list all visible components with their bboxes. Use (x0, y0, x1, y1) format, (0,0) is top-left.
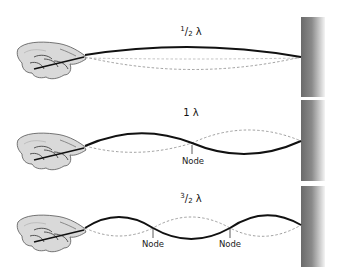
node-label: Node (142, 240, 164, 249)
fraction-numerator: 1 (180, 25, 184, 33)
hand-icon (17, 133, 86, 170)
wall (301, 186, 325, 267)
node-label: Node (182, 157, 204, 166)
rope (85, 47, 301, 57)
fraction-numerator: 3 (180, 192, 184, 200)
hand-icon (17, 42, 86, 79)
hand-icon (17, 215, 86, 252)
rope-dashed-envelope (85, 58, 301, 59)
fraction-denominator: 2 (188, 197, 192, 205)
node-label: Node (219, 240, 241, 249)
wavelength-label-three-half: 3/2 λ (180, 193, 201, 205)
rope-dashed-envelope (85, 130, 301, 152)
panel-three-half-wavelength (17, 186, 325, 267)
lambda-symbol: λ (196, 193, 202, 204)
lambda-symbol: λ (196, 26, 202, 37)
rope-dashed-envelope (85, 217, 301, 236)
wavelength-label-half: 1/2 λ (180, 26, 201, 38)
wall (301, 17, 325, 97)
panel-one-wavelength (17, 100, 325, 181)
fraction-denominator: 2 (188, 30, 192, 38)
rope (85, 133, 301, 154)
standing-wave-diagram (0, 0, 343, 278)
wavelength-label-one: 1 λ (183, 108, 198, 118)
rope (85, 215, 301, 239)
wall (301, 100, 325, 181)
panel-half-wavelength (17, 17, 325, 97)
